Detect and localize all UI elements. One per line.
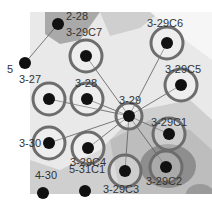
node-3-30[interactable] (43, 137, 55, 149)
node-label-3-29C3: 3-29C3 (103, 183, 139, 195)
node-3-29[interactable] (123, 110, 135, 122)
node-label-4-30: 4-30 (35, 169, 57, 181)
node-3-29C2[interactable] (160, 161, 172, 173)
node-3-29C4[interactable] (82, 142, 94, 154)
node-label-3-29: 3-29 (119, 94, 141, 106)
node-label-5: 5 (7, 63, 13, 75)
node-label-3-29C2: 3-29C2 (146, 175, 182, 187)
node-label-3-27: 3-27 (19, 73, 41, 85)
bottom-margin (0, 194, 212, 209)
node-label-2-28: 2-28 (66, 10, 88, 22)
node-label-3-29C6: 3-29C6 (147, 17, 183, 29)
node-label-3-28: 3-28 (75, 77, 97, 89)
node-3-29C1[interactable] (163, 128, 175, 140)
node-3-29C7[interactable] (80, 50, 92, 62)
node-3-28[interactable] (81, 93, 93, 105)
node-label-3-29C1: 3-29C1 (151, 116, 187, 128)
node-4-30[interactable] (37, 187, 49, 199)
node-3-27[interactable] (43, 93, 55, 105)
node-3-29C6[interactable] (161, 37, 173, 49)
node-2-28[interactable] (52, 18, 64, 30)
node-3-29C5[interactable] (175, 79, 187, 91)
node-label-3-30: 3-30 (19, 137, 41, 149)
node-5[interactable] (19, 57, 31, 69)
node-label-3-29C5: 3-29C5 (165, 63, 201, 75)
node-3-29C3[interactable] (119, 165, 131, 177)
node-label-3-29C7: 3-29C7 (66, 26, 102, 38)
network-diagram: 2-2853-29C73-29C63-29C53-273-283-293-29C… (0, 0, 212, 209)
node-label-5-31C1: 5-31C1 (69, 163, 105, 175)
node-5-31C1[interactable] (79, 185, 91, 197)
